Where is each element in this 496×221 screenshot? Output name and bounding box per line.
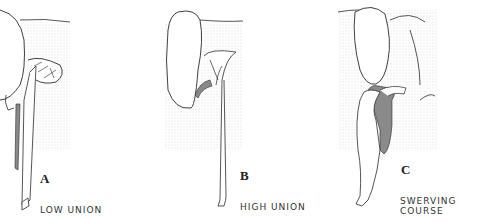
panel-c-caption: SWERVING COURSE <box>400 196 496 216</box>
anatomical-diagram <box>0 0 496 221</box>
panel-b-letter: B <box>240 168 249 184</box>
panel-a-letter: A <box>40 171 49 187</box>
panel-b-drawing <box>165 11 243 206</box>
panel-a-caption: LOW UNION <box>40 205 102 215</box>
panel-c-drawing <box>338 7 438 206</box>
panel-a-drawing <box>0 10 70 210</box>
panel-b-caption: HIGH UNION <box>240 202 306 212</box>
panel-c-letter: C <box>401 162 410 178</box>
